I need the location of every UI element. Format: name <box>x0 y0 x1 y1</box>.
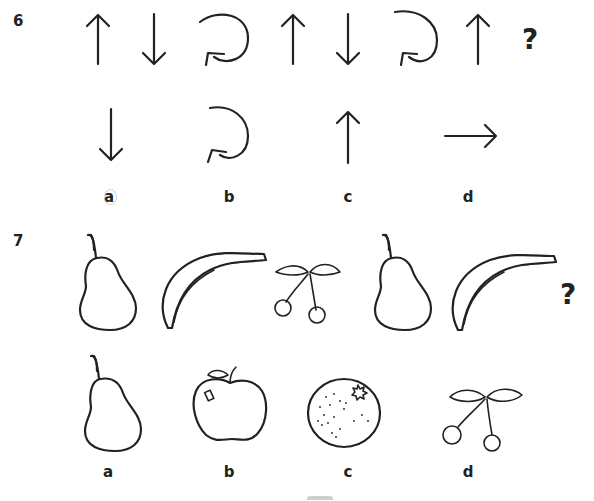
option-label-c[interactable]: c <box>338 188 358 206</box>
arrow-up-icon <box>281 12 305 68</box>
arrow-circular-icon[interactable] <box>202 106 254 164</box>
question-number-6: 6 <box>13 12 23 30</box>
pear-icon <box>78 232 140 332</box>
pencil-mark <box>104 189 117 205</box>
cherries-icon <box>272 258 344 326</box>
banana-icon <box>450 250 560 334</box>
banana-icon <box>160 248 270 332</box>
missing-item-marker: ? <box>560 278 576 311</box>
arrow-down-icon <box>336 12 360 68</box>
arrow-up-icon <box>86 12 110 68</box>
arrow-up-icon[interactable] <box>336 109 360 165</box>
arrow-up-icon <box>466 12 490 68</box>
pear-icon[interactable] <box>83 353 145 453</box>
arrow-circular-icon <box>198 10 250 68</box>
option-label-d[interactable]: d <box>458 188 478 206</box>
missing-item-marker: ? <box>522 23 538 56</box>
pear-icon <box>373 232 435 332</box>
option-label-a[interactable]: a <box>98 463 118 481</box>
arrow-right-icon[interactable] <box>443 124 499 148</box>
arrow-down-icon[interactable] <box>99 107 123 163</box>
orange-icon[interactable] <box>306 377 384 449</box>
cherries-icon[interactable] <box>440 383 528 451</box>
option-label-b[interactable]: b <box>219 463 239 481</box>
arrow-down-icon <box>142 12 166 68</box>
option-label-c[interactable]: c <box>338 463 358 481</box>
option-label-b[interactable]: b <box>219 188 239 206</box>
apple-icon[interactable] <box>192 365 268 445</box>
question-number-7: 7 <box>13 232 23 250</box>
scan-artifact <box>307 496 333 500</box>
option-label-d[interactable]: d <box>458 463 478 481</box>
arrow-circular-icon <box>393 10 445 68</box>
